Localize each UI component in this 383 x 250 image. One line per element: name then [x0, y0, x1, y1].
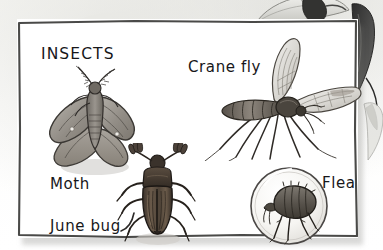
insects-panel: INSECTS Crane fly Moth June bug Flea [17, 19, 358, 238]
june-bug-pointer-icon [119, 209, 145, 235]
illustration-page: INSECTS Crane fly Moth June bug Flea [0, 0, 383, 250]
label-june-bug: June bug [50, 219, 121, 234]
label-moth: Moth [50, 177, 90, 192]
panel-title-insects: INSECTS [41, 47, 115, 63]
bird-wing-right-lower-icon [364, 103, 383, 160]
label-flea: Flea [322, 176, 356, 191]
label-crane-fly: Crane fly [188, 60, 261, 75]
flea-magnified-illustration [248, 162, 330, 250]
crane-fly-illustration [200, 37, 364, 161]
